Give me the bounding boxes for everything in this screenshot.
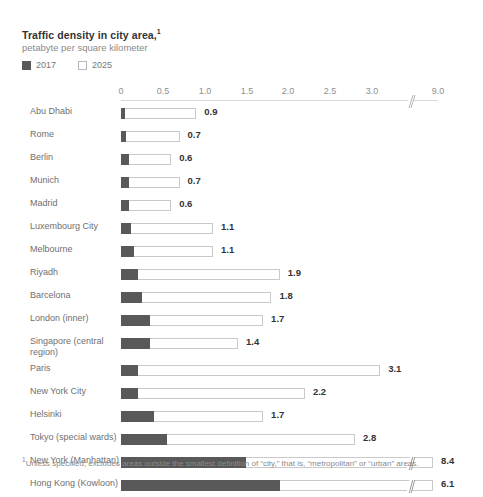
value-label: 0.7 [188, 175, 201, 186]
value-label: 3.1 [388, 363, 401, 374]
bar-2017-singapore-central-region[interactable] [121, 338, 150, 349]
legend-swatch-2017 [22, 61, 31, 70]
chart-row: Singapore (central region)1.4 [0, 334, 483, 361]
footnote-text: Unless specified, excludes areas outside… [26, 459, 419, 468]
bar-2025-munich[interactable] [121, 177, 180, 188]
value-label: 1.7 [271, 409, 284, 420]
row-label-tokyo-special-wards: Tokyo (special wards) [30, 432, 122, 443]
bar-2025-luxembourg-city[interactable] [121, 223, 213, 234]
value-label: 2.2 [313, 386, 326, 397]
chart-row: Riyadh1.9 [0, 265, 483, 288]
bar-2017-paris[interactable] [121, 365, 138, 376]
value-label: 0.6 [179, 152, 192, 163]
x-axis-tick-0: 0 [118, 86, 123, 96]
bar-2017-luxembourg-city[interactable] [121, 223, 131, 234]
bar-2025-barcelona[interactable] [121, 292, 271, 303]
bar-2017-rome[interactable] [121, 131, 126, 142]
bar-2025-abu-dhabi[interactable] [121, 108, 196, 119]
value-label: 1.4 [246, 336, 259, 347]
row-label-hong-kong-kowloon: Hong Kong (Kowloon) [30, 478, 122, 489]
chart-row: Abu Dhabi0.9 [0, 104, 483, 127]
chart-row: London (inner)1.7 [0, 311, 483, 334]
bar-2017-barcelona[interactable] [121, 292, 142, 303]
bar-group [121, 269, 280, 281]
chart-row: Melbourne1.1 [0, 242, 483, 265]
bar-2017-berlin[interactable] [121, 154, 129, 165]
x-axis-tick-1.0: 1.0 [199, 86, 212, 96]
bar-2025-paris[interactable] [121, 365, 380, 376]
row-label-berlin: Berlin [30, 152, 122, 163]
chart-row: Madrid0.6 [0, 196, 483, 219]
value-label: 1.1 [221, 221, 234, 232]
chart-title: Traffic density in city area,1 [22, 28, 161, 41]
bar-group [121, 480, 433, 492]
row-label-riyadh: Riyadh [30, 267, 122, 278]
bar-group [121, 154, 171, 166]
bar-2017-madrid[interactable] [121, 200, 129, 211]
row-label-singapore-central-region: Singapore (central region) [30, 336, 122, 358]
chart-row: Luxembourg City1.1 [0, 219, 483, 242]
bar-group [121, 434, 355, 446]
chart-row: Berlin0.6 [0, 150, 483, 173]
chart-row: Paris3.1 [0, 361, 483, 384]
bar-2017-melbourne[interactable] [121, 246, 134, 257]
row-label-barcelona: Barcelona [30, 290, 122, 301]
value-label: 1.8 [279, 290, 292, 301]
row-label-paris: Paris [30, 363, 122, 374]
bar-2017-london-inner[interactable] [121, 315, 150, 326]
chart-row: Rome0.7 [0, 127, 483, 150]
legend-item-2017[interactable]: 2017 [22, 60, 56, 70]
bar-group [121, 315, 263, 327]
chart-title-footnote-marker: 1 [157, 28, 161, 35]
row-label-madrid: Madrid [30, 198, 122, 209]
chart-title-text: Traffic density in city area, [22, 29, 157, 41]
bar-group [121, 223, 213, 235]
bar-2017-new-york-city[interactable] [121, 388, 138, 399]
legend-label-2025: 2025 [92, 60, 112, 70]
value-label: 1.1 [221, 244, 234, 255]
bar-2025-rome[interactable] [121, 131, 180, 142]
row-label-melbourne: Melbourne [30, 244, 122, 255]
bar-group [121, 388, 305, 400]
legend-item-2025[interactable]: 2025 [78, 60, 112, 70]
bar-break-icon [405, 479, 417, 492]
bar-2025-madrid[interactable] [121, 200, 171, 211]
x-axis-tick-9.0: 9.0 [432, 86, 445, 96]
bar-2017-hong-kong-kowloon[interactable] [121, 480, 280, 491]
bar-2025-new-york-city[interactable] [121, 388, 305, 399]
chart-rows: Abu Dhabi0.9Rome0.7Berlin0.6Munich0.7Mad… [0, 104, 483, 497]
row-label-abu-dhabi: Abu Dhabi [30, 106, 122, 117]
value-label: 0.6 [179, 198, 192, 209]
row-label-london-inner: London (inner) [30, 313, 122, 324]
chart-row: New York City2.2 [0, 384, 483, 407]
bar-2017-abu-dhabi[interactable] [121, 108, 125, 119]
chart-row: Hong Kong (Kowloon)6.1 [0, 476, 483, 497]
x-axis-tick-0.5: 0.5 [157, 86, 170, 96]
bar-2025-melbourne[interactable] [121, 246, 213, 257]
bar-group [121, 292, 271, 304]
x-axis-rule [121, 100, 438, 101]
bar-2017-riyadh[interactable] [121, 269, 138, 280]
bar-2017-munich[interactable] [121, 177, 129, 188]
chart-row: Tokyo (special wards)2.8 [0, 430, 483, 453]
bar-2017-helsinki[interactable] [121, 411, 154, 422]
bar-2025-riyadh[interactable] [121, 269, 280, 280]
bar-group [121, 246, 213, 258]
bar-group [121, 338, 238, 350]
bar-group [121, 131, 180, 143]
bar-group [121, 411, 263, 423]
legend-swatch-2025 [78, 61, 87, 70]
row-label-rome: Rome [30, 129, 122, 140]
bar-2025-berlin[interactable] [121, 154, 171, 165]
bar-group [121, 365, 380, 377]
bar-group [121, 108, 196, 120]
chart-footnote: 1Unless specified, excludes areas outsid… [22, 455, 471, 469]
chart-legend: 20172025 [22, 60, 112, 70]
value-label: 0.9 [204, 106, 217, 117]
legend-label-2017: 2017 [36, 60, 56, 70]
bar-2017-tokyo-special-wards[interactable] [121, 434, 167, 445]
bar-group [121, 200, 171, 212]
value-label: 2.8 [363, 432, 376, 443]
row-label-new-york-city: New York City [30, 386, 122, 397]
